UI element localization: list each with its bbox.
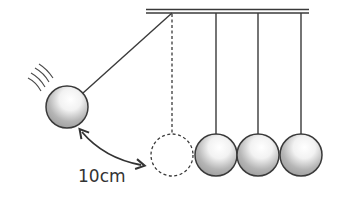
- hanging-ball-1: [195, 134, 237, 176]
- newtons-cradle-diagram: [0, 0, 337, 199]
- hanging-ball-2: [237, 134, 279, 176]
- hanging-ball-3: [280, 134, 322, 176]
- hanging-strings: [216, 13, 301, 134]
- rest-position-ball: [151, 134, 193, 176]
- motion-lines-icon: [28, 64, 53, 91]
- support-bar: [146, 10, 309, 14]
- distance-label: 10cm: [78, 166, 126, 186]
- distance-arrow: [82, 132, 141, 165]
- swung-ball: [46, 86, 88, 128]
- swung-string: [83, 13, 172, 93]
